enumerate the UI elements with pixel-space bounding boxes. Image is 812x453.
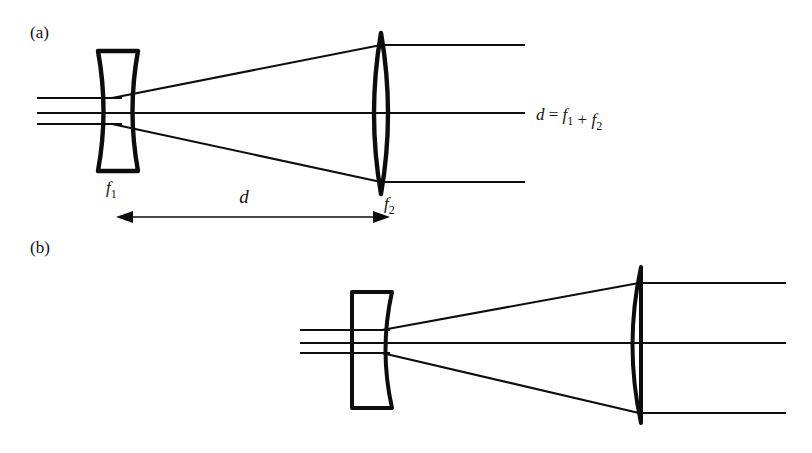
panel-a: (a) f1 f2 (30, 23, 602, 223)
ray-diverging-lower (112, 124, 381, 182)
equation-annotation: d = f1 + f2 (536, 105, 602, 133)
dimension-label-d: d (239, 186, 249, 207)
panel-a-incoming-rays (37, 98, 122, 124)
dimension-arrow-d: d (116, 186, 390, 223)
panel-b: (b) (30, 238, 786, 423)
ray-diverging-upper (112, 45, 381, 98)
lens-f1-label: f1 (106, 178, 117, 201)
figure-canvas: (a) f1 f2 (0, 0, 812, 453)
panel-b-label: (b) (30, 238, 50, 257)
arrow-head-left (116, 211, 133, 223)
ray-diverging-lower (382, 353, 639, 413)
panel-b-incoming-rays (300, 330, 390, 353)
panel-a-outgoing-rays (379, 45, 525, 182)
panel-a-intermediate-rays (112, 45, 381, 182)
panel-b-outgoing-rays (637, 283, 786, 413)
lens-f2-label: f2 (384, 194, 395, 217)
optical-figure: (a) f1 f2 (0, 0, 812, 453)
biconcave-lens-f1 (98, 51, 138, 171)
plano-concave-lens (352, 292, 392, 408)
plano-convex-lens (633, 267, 642, 423)
panel-b-intermediate-rays (382, 283, 639, 413)
panel-a-label: (a) (30, 23, 49, 42)
ray-diverging-upper (382, 283, 639, 330)
